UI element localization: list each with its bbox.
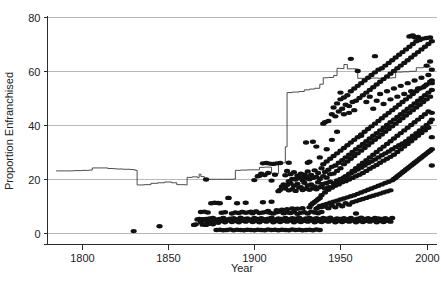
scatter-point [424, 63, 430, 67]
scatter-point [412, 78, 418, 82]
scatter-point [239, 210, 245, 214]
scatter-point [429, 88, 435, 92]
scatter-point [305, 161, 311, 165]
scatter-point [306, 205, 312, 209]
scatter-point [289, 206, 295, 210]
scatter-point [348, 57, 354, 61]
scatter-point [429, 67, 435, 71]
scatter-point [418, 76, 424, 80]
scatter-point [355, 69, 361, 73]
scatter-point [429, 163, 435, 167]
scatter-point [394, 94, 400, 98]
scatter-point [320, 162, 326, 166]
scatter-point [358, 134, 364, 138]
scatter-point [265, 171, 271, 175]
scatter-point [303, 140, 309, 144]
scatter-point [234, 201, 240, 205]
scatter-point [268, 199, 274, 203]
scatter-point [156, 224, 162, 228]
scatter-point [225, 196, 231, 200]
scatter-point [384, 89, 390, 93]
y-tick-label: 40 [28, 120, 40, 132]
x-tick-label: 1800 [70, 252, 94, 264]
scatter-point [374, 99, 380, 103]
scatter-point [217, 201, 223, 205]
scatter-point [293, 177, 299, 181]
scatter-point [203, 177, 209, 181]
scatter-point [398, 84, 404, 88]
scatter-point [429, 39, 435, 43]
scatter-point [131, 229, 137, 233]
scatter-point [337, 166, 343, 170]
scatter-point [389, 216, 395, 220]
scatter-point [401, 92, 407, 96]
scatter-point [408, 89, 414, 93]
y-tick-label: 20 [28, 174, 40, 186]
scatter-point [405, 81, 411, 85]
scatter-point [391, 86, 397, 90]
scatter-point [429, 147, 435, 151]
scatter-point [363, 100, 369, 104]
scatter-point [427, 59, 433, 63]
scatter-point [248, 209, 254, 213]
scatter-point [222, 210, 228, 214]
scatter-point [346, 104, 352, 108]
scatter-point [325, 119, 331, 123]
scatter-point [344, 93, 350, 97]
scatter-point [334, 130, 340, 134]
scatter-point [427, 35, 433, 39]
scatter-point [334, 101, 340, 105]
scatter-point [370, 107, 376, 111]
scatter-point [429, 81, 435, 85]
scatter-point [251, 178, 257, 182]
scatter-point [317, 155, 323, 159]
scatter-point [422, 84, 428, 88]
scatter-point [425, 126, 431, 130]
scatter-point [387, 97, 393, 101]
scatter-point [272, 172, 278, 176]
scatter-point [265, 209, 271, 213]
x-axis-title: Year [231, 262, 254, 274]
scatter-point [353, 211, 359, 215]
scatter-point [415, 86, 421, 90]
y-tick-label: 60 [28, 66, 40, 78]
scatter-point [324, 147, 330, 151]
scatter-point [260, 200, 266, 204]
x-tick-label: 1950 [328, 252, 352, 264]
scatter-point [286, 161, 292, 165]
scatter-point [330, 105, 336, 109]
scatter-point [387, 219, 393, 223]
scatter-point [351, 108, 357, 112]
scatter-point [380, 102, 386, 106]
scatter-point [274, 208, 280, 212]
scatter-point [193, 222, 199, 226]
scatter-point [429, 117, 435, 121]
y-tick-label: 0 [34, 228, 40, 240]
scatter-point [377, 92, 383, 96]
x-tick-label: 1850 [156, 252, 180, 264]
chart-figure: 020406080 18001850190019502000 Proportio… [0, 0, 441, 283]
scatter-point [205, 210, 211, 214]
y-axis-title: Proportion Enfranchised [3, 72, 15, 190]
scatter-point [339, 107, 345, 111]
scatter-point [387, 188, 393, 192]
scatter-point [277, 161, 283, 165]
scatter-point [427, 94, 433, 98]
scatter-point [310, 140, 316, 144]
enfranchisement-scatter-chart: 020406080 18001850190019502000 Proportio… [0, 0, 441, 283]
scatter-point [318, 210, 324, 214]
x-tick-label: 2000 [415, 252, 439, 264]
scatter-point [268, 178, 274, 182]
scatter-point [329, 138, 335, 142]
scatter-point [337, 90, 343, 94]
y-tick-label: 80 [28, 12, 40, 24]
scatter-point [372, 54, 378, 58]
scatter-point [317, 228, 323, 232]
scatter-point [299, 206, 305, 210]
scatter-point [243, 201, 249, 205]
scatter-point [341, 112, 347, 116]
scatter-point [425, 73, 431, 77]
scatter-point [429, 135, 435, 139]
scatter-point [367, 94, 373, 98]
scatter-point [315, 171, 321, 175]
